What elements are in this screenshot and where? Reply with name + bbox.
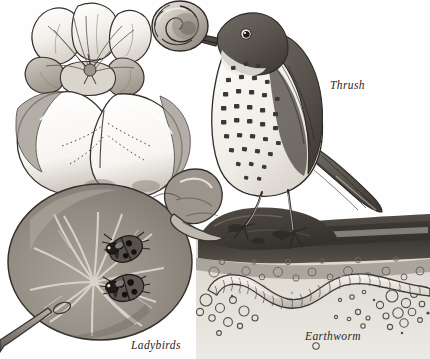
illustration-artwork <box>0 0 430 359</box>
soil-mound <box>200 208 338 250</box>
nasturtium-flower <box>25 3 151 96</box>
petal-upper-right <box>109 10 151 63</box>
petal-lower-left <box>25 57 64 93</box>
nasturtium-leaf <box>0 184 192 352</box>
label-earthworm: Earthworm <box>305 330 361 342</box>
snail-shell <box>152 1 208 51</box>
label-ladybirds: Ladybirds <box>131 339 181 351</box>
illustration-canvas: Thrush Ladybirds Earthworm <box>0 0 430 359</box>
nasturtium-lower-petals <box>16 92 190 198</box>
label-thrush: Thrush <box>330 79 365 91</box>
leaf-stem <box>0 308 52 352</box>
